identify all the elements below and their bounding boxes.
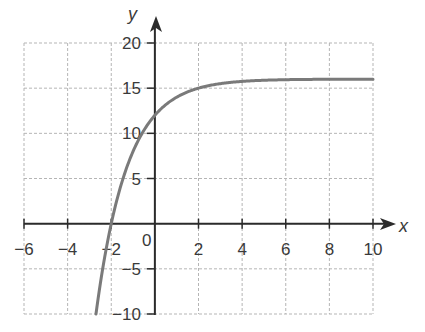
y-tick-label: 5 <box>131 170 140 189</box>
x-axis-label: x <box>398 216 409 236</box>
y-axis-label: y <box>126 4 138 24</box>
x-tick-label: 6 <box>281 240 290 259</box>
x-tick-label: 8 <box>325 240 334 259</box>
x-tick-label: 10 <box>364 240 383 259</box>
y-tick-label: 15 <box>122 79 141 98</box>
x-tick-label: 4 <box>237 240 246 259</box>
y-tick-label: −10 <box>112 305 141 324</box>
y-axis-arrow-icon <box>150 16 162 32</box>
y-tick-label: −5 <box>121 260 140 279</box>
x-tick-label: 2 <box>194 240 203 259</box>
x-tick-label: −4 <box>58 240 77 259</box>
grid-lines <box>24 43 373 314</box>
origin-label: 0 <box>142 231 151 250</box>
function-graph: −6−4−22468102015105−5−10 x y 0 <box>0 0 425 332</box>
x-tick-label: −6 <box>14 240 33 259</box>
y-tick-label: 20 <box>122 34 141 53</box>
axes <box>24 26 386 315</box>
